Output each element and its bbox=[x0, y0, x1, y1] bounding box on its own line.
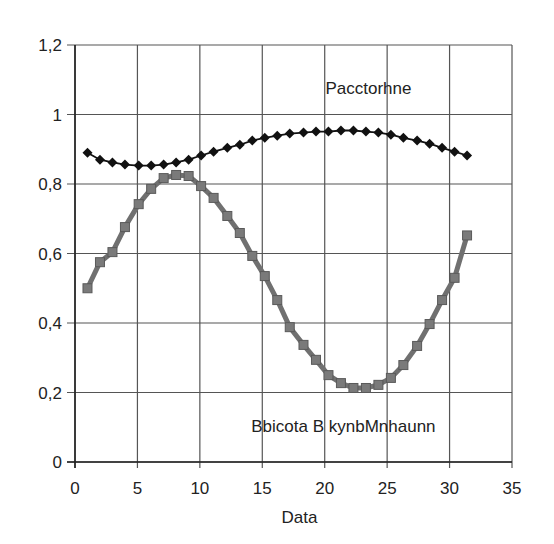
diamond-marker bbox=[196, 151, 206, 161]
square-marker bbox=[209, 193, 218, 202]
diamond-marker bbox=[134, 161, 144, 171]
y-axis-ticks: 00,20,40,60,811,2 bbox=[38, 36, 62, 472]
square-marker bbox=[159, 174, 168, 183]
diamond-marker bbox=[260, 133, 270, 143]
diamond-marker bbox=[247, 136, 257, 146]
diamond-marker bbox=[120, 160, 130, 170]
line-chart: 00,20,40,60,811,2 05101520253035 Pacctor… bbox=[0, 0, 554, 544]
x-tick-label: 30 bbox=[440, 479, 459, 498]
square-marker bbox=[172, 170, 181, 179]
y-tick-label: 0 bbox=[53, 453, 62, 472]
diamond-marker bbox=[272, 131, 282, 141]
square-marker bbox=[463, 231, 472, 240]
square-marker bbox=[324, 371, 333, 380]
y-tick-label: 1,2 bbox=[38, 36, 62, 55]
grid-lines bbox=[67, 45, 512, 468]
square-marker bbox=[349, 383, 358, 392]
square-marker bbox=[311, 355, 320, 364]
square-marker bbox=[399, 361, 408, 370]
x-tick-label: 35 bbox=[503, 479, 522, 498]
square-marker bbox=[438, 296, 447, 305]
square-marker bbox=[223, 211, 232, 220]
square-marker bbox=[299, 340, 308, 349]
square-marker bbox=[450, 273, 459, 282]
data-series bbox=[82, 125, 472, 392]
diamond-marker bbox=[425, 139, 435, 149]
diamond-marker bbox=[361, 127, 371, 137]
square-marker bbox=[413, 341, 422, 350]
y-tick-label: 0,6 bbox=[38, 245, 62, 264]
diamond-marker bbox=[311, 127, 321, 137]
x-tick-label: 25 bbox=[378, 479, 397, 498]
diamond-marker bbox=[348, 125, 358, 135]
x-tick-label: 0 bbox=[70, 479, 79, 498]
diamond-marker bbox=[209, 147, 219, 157]
square-marker bbox=[425, 320, 434, 329]
square-marker bbox=[108, 248, 117, 257]
square-marker bbox=[273, 296, 282, 305]
square-marker bbox=[248, 251, 257, 260]
square-marker bbox=[134, 200, 143, 209]
diamond-marker bbox=[184, 155, 194, 165]
diamond-marker bbox=[462, 151, 472, 161]
square-marker bbox=[120, 223, 129, 232]
y-tick-label: 0,8 bbox=[38, 175, 62, 194]
x-tick-label: 10 bbox=[190, 479, 209, 498]
series-upper-diamonds bbox=[82, 125, 472, 170]
diamond-marker bbox=[398, 133, 408, 143]
square-marker bbox=[285, 323, 294, 332]
diamond-marker bbox=[373, 128, 383, 138]
square-marker bbox=[197, 182, 206, 191]
diamond-marker bbox=[285, 129, 295, 139]
square-marker bbox=[184, 172, 193, 181]
annotation-upper-series: Pacctorhne bbox=[325, 79, 411, 98]
square-marker bbox=[260, 272, 269, 281]
diamond-marker bbox=[222, 143, 232, 153]
square-marker bbox=[83, 284, 92, 293]
x-axis-title: Data bbox=[282, 508, 318, 527]
x-tick-label: 15 bbox=[253, 479, 272, 498]
diamond-marker bbox=[235, 140, 245, 150]
y-tick-label: 0,2 bbox=[38, 384, 62, 403]
square-marker bbox=[361, 383, 370, 392]
square-marker bbox=[374, 380, 383, 389]
diamond-marker bbox=[159, 160, 169, 170]
y-tick-label: 0,4 bbox=[38, 314, 62, 333]
diamond-marker bbox=[82, 148, 92, 158]
square-marker bbox=[235, 228, 244, 237]
x-tick-label: 20 bbox=[315, 479, 334, 498]
y-tick-label: 1 bbox=[53, 106, 62, 125]
diamond-marker bbox=[412, 136, 422, 146]
diamond-marker bbox=[298, 128, 308, 138]
diamond-marker bbox=[336, 125, 346, 135]
series-lower-squares bbox=[83, 170, 472, 392]
square-marker bbox=[336, 379, 345, 388]
square-marker bbox=[386, 373, 395, 382]
diamond-marker bbox=[437, 143, 447, 153]
diamond-marker bbox=[171, 157, 181, 167]
diamond-marker bbox=[107, 157, 117, 167]
x-axis-ticks: 05101520253035 bbox=[70, 479, 521, 498]
diamond-marker bbox=[450, 147, 460, 157]
diamond-marker bbox=[95, 155, 105, 165]
x-tick-label: 5 bbox=[133, 479, 142, 498]
annotation-lower-series: Bbicota B kynbMnhaunn bbox=[251, 417, 435, 436]
square-marker bbox=[147, 184, 156, 193]
square-marker bbox=[95, 258, 104, 267]
diamond-marker bbox=[146, 161, 156, 171]
